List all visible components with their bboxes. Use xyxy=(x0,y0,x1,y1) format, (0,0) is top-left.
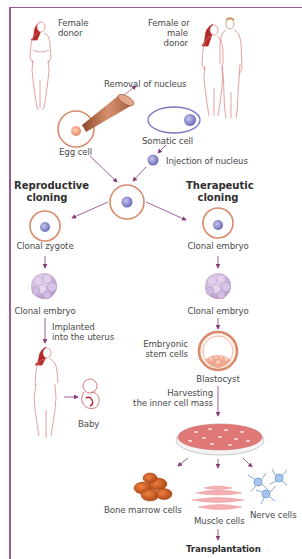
label-stem-line2: stem cells xyxy=(140,349,188,359)
label-injection-of-nucleus: Injection of nucleus xyxy=(166,156,248,166)
heading-therapeutic-line1: Therapeutic xyxy=(186,180,250,192)
somatic-cell xyxy=(148,107,200,133)
heading-reproductive-line2: cloning xyxy=(14,192,80,204)
label-baby: Baby xyxy=(78,419,99,429)
label-harvest-line1: Harvesting xyxy=(120,388,213,398)
label-removal-of-nucleus: Removal of nucleus xyxy=(104,79,186,89)
label-transplantation: Transplantation xyxy=(186,544,261,554)
pipette xyxy=(82,86,136,132)
blastocyst xyxy=(199,332,237,370)
label-female-or-male-donor: Female or male donor xyxy=(148,18,188,48)
muscle-cells xyxy=(192,486,244,510)
label-clonal-zygote: Clonal zygote xyxy=(10,241,80,251)
arrow-dish-to-bone-marrow xyxy=(178,458,188,466)
label-embryonic-stem-cells: Embryonic stem cells xyxy=(140,339,188,359)
arrow-to-therapeutic xyxy=(146,202,186,220)
label-clonal-embryo-left: Clonal embryo xyxy=(10,306,80,316)
label-donor-line3: donor xyxy=(148,38,188,48)
heading-therapeutic-line2: cloning xyxy=(186,192,250,204)
label-donor-line1: Female or xyxy=(148,18,188,28)
arrow-somatic-to-nucleus xyxy=(158,145,166,153)
label-implanted-line2: into the uterus xyxy=(52,332,114,342)
heading-therapeutic-cloning: Therapeutic cloning xyxy=(186,180,250,204)
cloning-diagram: Female donor Female or male donor Remova… xyxy=(0,0,302,559)
heading-reproductive-line1: Reproductive xyxy=(14,180,80,192)
label-donor-line2: male xyxy=(148,28,188,38)
heading-reproductive-cloning: Reproductive cloning xyxy=(14,180,80,204)
petri-dish xyxy=(176,424,264,455)
clonal-embryo-cell-therapeutic xyxy=(203,208,233,238)
label-female-donor-line1: Female xyxy=(58,18,88,28)
label-egg-cell: Egg cell xyxy=(59,147,92,157)
reconstructed-egg-cell xyxy=(110,185,144,219)
arrow-dish-to-nerve xyxy=(243,458,252,467)
clonal-embryo-morula-left xyxy=(31,273,57,299)
label-bone-marrow-cells: Bone marrow cells xyxy=(104,505,182,515)
label-implanted-into-uterus: Implanted into the uterus xyxy=(52,322,114,342)
clonal-embryo-morula-right xyxy=(205,273,231,299)
label-harvest-line2: the inner cell mass xyxy=(120,398,213,408)
label-implanted-line1: Implanted xyxy=(52,322,114,332)
label-female-donor: Female donor xyxy=(58,18,88,38)
label-muscle-cells: Muscle cells xyxy=(194,516,245,526)
recipient-woman-figure xyxy=(34,347,58,438)
arrow-to-reproductive xyxy=(72,202,108,218)
label-female-donor-line2: donor xyxy=(58,28,88,38)
arrow-nucleus-to-center xyxy=(133,167,146,181)
bone-marrow-cells xyxy=(134,473,172,501)
label-nerve-cells: Nerve cells xyxy=(250,510,297,520)
label-harvesting-inner-cell-mass: Harvesting the inner cell mass xyxy=(120,388,213,408)
clonal-zygote-cell xyxy=(30,211,60,241)
female-or-male-donor-figures xyxy=(202,18,242,118)
label-stem-line1: Embryonic xyxy=(140,339,188,349)
label-somatic-cell: Somatic cell xyxy=(142,136,193,146)
label-blastocyst: Blastocyst xyxy=(193,374,243,384)
nerve-cells xyxy=(248,469,287,504)
arrow-egg-to-center xyxy=(90,156,117,182)
label-clonal-embryo-2: Clonal embryo xyxy=(183,306,253,316)
injected-nucleus xyxy=(148,155,159,166)
female-donor-figure xyxy=(30,22,51,110)
baby-figure xyxy=(82,379,99,409)
label-clonal-embryo-1: Clonal embryo xyxy=(183,241,253,251)
